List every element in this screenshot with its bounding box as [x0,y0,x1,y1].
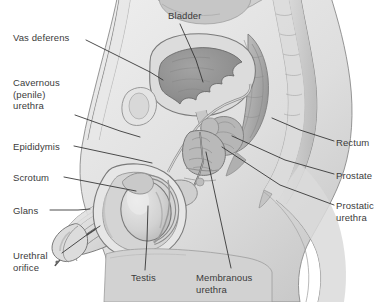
glans-penis [52,224,88,266]
leader-glans [50,209,90,210]
male-reproductive-system-illustration [0,0,385,302]
anatomical-figure: Vas deferens Cavernous (penile) urethra … [0,0,385,302]
